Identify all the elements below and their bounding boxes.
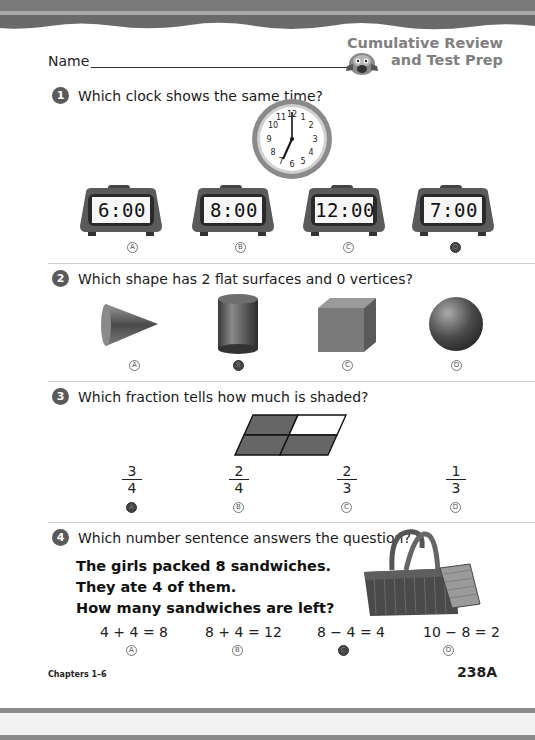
svg-text:8: 8 [270, 148, 275, 157]
answer-bubble-2b-selected[interactable]: B [233, 360, 244, 371]
digital-time: 7:00 [424, 197, 484, 223]
svg-text:2: 2 [308, 121, 313, 130]
svg-text:1: 1 [300, 113, 305, 122]
answer-bubble-2d[interactable]: D [451, 360, 462, 371]
section-divider [48, 263, 535, 264]
chapters-label: Chapters 1–6 [48, 670, 107, 679]
answer-bubble-2c[interactable]: C [342, 360, 353, 371]
answer-bubble-3b[interactable]: B [233, 502, 244, 513]
alarm-clock-b[interactable]: 8:00 [190, 184, 276, 238]
svg-text:6: 6 [289, 160, 294, 169]
question-4-prompt: 4 Which number sentence answers the ques… [52, 529, 411, 546]
answer-bubble-1a[interactable]: A [127, 242, 138, 253]
name-input-line[interactable] [91, 67, 353, 68]
svg-text:3: 3 [312, 135, 317, 144]
answer-bubble-4d[interactable]: D [443, 645, 454, 656]
question-1-number: 1 [52, 87, 69, 104]
cone-icon[interactable] [100, 302, 160, 348]
mascot-icon [345, 52, 379, 76]
answer-bubble-4a[interactable]: A [126, 645, 137, 656]
equation-choice-c: 8 − 4 = 4 [317, 624, 385, 640]
equation-choice-d: 10 − 8 = 2 [423, 624, 500, 640]
section-divider [48, 522, 535, 523]
fraction-denominator: 3 [446, 480, 466, 495]
answer-bubble-2a[interactable]: A [129, 360, 140, 371]
alarm-clock-d[interactable]: 7:00 [410, 184, 496, 238]
svg-text:4: 4 [308, 148, 313, 157]
fraction-choice-b: 2 4 [229, 464, 249, 495]
equation-choice-b: 8 + 4 = 12 [205, 624, 282, 640]
fraction-denominator: 4 [122, 480, 142, 495]
answer-bubble-1d-selected[interactable]: D [450, 242, 461, 253]
word-problem-line-3: How many sandwiches are left? [76, 598, 334, 619]
brand-title: Cumulative Review and Test Prep [347, 35, 503, 69]
question-2-prompt: 2 Which shape has 2 flat surfaces and 0 … [52, 270, 413, 287]
fraction-choice-d: 1 3 [446, 464, 466, 495]
analog-clock-icon: 1212 345 678 91011 [250, 97, 334, 181]
answer-bubble-3d[interactable]: D [450, 502, 461, 513]
answer-bubble-4b[interactable]: B [232, 645, 243, 656]
fraction-numerator: 2 [229, 464, 249, 480]
svg-text:11: 11 [276, 113, 286, 122]
parallelogram-fraction-figure [234, 414, 348, 456]
section-divider [48, 381, 535, 382]
page-number: 238A [457, 664, 497, 680]
equation-choice-a: 4 + 4 = 8 [100, 624, 168, 640]
question-2-text: Which shape has 2 flat surfaces and 0 ve… [78, 271, 413, 287]
svg-text:9: 9 [266, 135, 271, 144]
word-problem-line-1: The girls packed 8 sandwiches. [76, 556, 334, 577]
answer-bubble-3a-selected[interactable]: A [126, 502, 137, 513]
digital-time: 12:00 [315, 197, 375, 223]
top-decorative-band [0, 0, 535, 30]
fraction-denominator: 4 [229, 480, 249, 495]
picnic-basket-icon [362, 528, 482, 618]
answer-bubble-3c[interactable]: C [341, 502, 352, 513]
cube-icon[interactable] [316, 296, 378, 354]
svg-text:10: 10 [268, 121, 278, 130]
fraction-numerator: 1 [446, 464, 466, 480]
svg-text:5: 5 [300, 157, 305, 166]
word-problem-line-2: They ate 4 of them. [76, 577, 334, 598]
fraction-choice-c: 2 3 [337, 464, 357, 495]
digital-time: 6:00 [92, 197, 152, 223]
fraction-denominator: 3 [337, 480, 357, 495]
word-problem: The girls packed 8 sandwiches. They ate … [76, 556, 334, 619]
question-4-text: Which number sentence answers the questi… [78, 530, 411, 546]
alarm-clock-a[interactable]: 6:00 [78, 184, 164, 238]
digital-time: 8:00 [204, 197, 264, 223]
question-3-number: 3 [52, 388, 69, 405]
question-3-text: Which fraction tells how much is shaded? [78, 389, 369, 405]
fraction-numerator: 3 [122, 464, 142, 480]
fraction-choice-a: 3 4 [122, 464, 142, 495]
brand-line-1: Cumulative Review [347, 35, 503, 52]
alarm-clock-c[interactable]: 12:00 [301, 184, 387, 238]
question-2-number: 2 [52, 270, 69, 287]
fraction-numerator: 2 [337, 464, 357, 480]
bottom-decorative-band [0, 708, 535, 740]
answer-bubble-1b[interactable]: B [235, 242, 246, 253]
answer-bubble-4c-selected[interactable]: C [338, 645, 349, 656]
question-4-number: 4 [52, 529, 69, 546]
question-3-prompt: 3 Which fraction tells how much is shade… [52, 388, 369, 405]
name-label: Name [48, 53, 89, 69]
cylinder-icon[interactable] [216, 293, 260, 355]
sphere-icon[interactable] [427, 295, 485, 353]
answer-bubble-1c[interactable]: C [343, 242, 354, 253]
